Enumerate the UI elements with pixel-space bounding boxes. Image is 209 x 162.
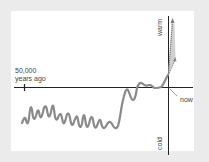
now-label: now bbox=[180, 96, 193, 104]
arrowhead-icon bbox=[171, 18, 175, 23]
start-label-line2: years ago bbox=[15, 75, 46, 83]
now-pointer bbox=[170, 89, 177, 96]
start-label-line1: 50,000 bbox=[15, 67, 46, 75]
warm-label: warm bbox=[156, 19, 164, 36]
cold-label: cold bbox=[156, 137, 164, 150]
start-label: 50,000 years ago bbox=[15, 67, 46, 83]
